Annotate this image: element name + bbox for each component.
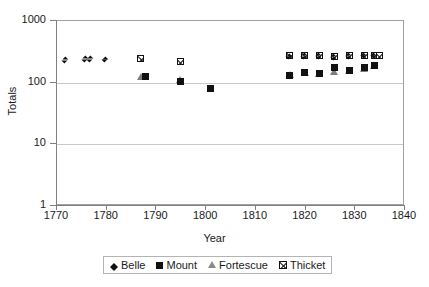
data-point-mount — [371, 62, 378, 69]
x-tick-label: 1810 — [235, 209, 275, 221]
legend-item-fortescue[interactable]: Fortescue — [208, 259, 268, 271]
data-point-thicket — [177, 58, 184, 65]
data-point-belle — [301, 50, 307, 56]
y-tick-label: 1000 — [0, 14, 46, 25]
data-point-belle — [102, 53, 108, 59]
data-point-belle — [331, 50, 337, 56]
legend-label: Fortescue — [219, 259, 268, 271]
x-tick-label: 1770 — [36, 209, 76, 221]
gridline — [57, 144, 403, 145]
crossed-square-marker-icon — [279, 261, 287, 269]
legend-label: Thicket — [290, 259, 325, 271]
data-point-mount — [177, 78, 184, 85]
scatter-chart: 1000100101 17701780179018001810182018301… — [0, 0, 429, 287]
triangle-marker-icon — [208, 261, 216, 268]
data-point-belle — [87, 53, 93, 59]
data-point-mount — [361, 64, 368, 71]
diamond-marker-icon — [110, 259, 118, 267]
x-tick-label: 1840 — [384, 209, 424, 221]
chart-legend: Belle Mount Fortescue Thicket — [103, 256, 332, 274]
data-point-belle — [361, 49, 367, 55]
data-point-belle — [316, 50, 322, 56]
data-point-belle — [286, 50, 292, 56]
gridline — [57, 83, 403, 84]
x-axis-title: Year — [0, 232, 429, 244]
legend-item-belle[interactable]: Belle — [110, 259, 145, 271]
y-tick — [50, 20, 56, 21]
plot-area — [56, 20, 404, 205]
data-point-mount — [316, 70, 323, 77]
data-point-mount — [301, 69, 308, 76]
x-axis-line — [56, 205, 405, 206]
data-point-belle — [62, 53, 68, 59]
legend-item-thicket[interactable]: Thicket — [279, 259, 325, 271]
legend-label: Mount — [166, 259, 197, 271]
x-tick-label: 1820 — [285, 209, 325, 221]
y-axis-line — [56, 20, 57, 206]
data-point-mount — [142, 73, 149, 80]
y-axis-title: Totals — [6, 71, 18, 131]
data-point-thicket — [137, 55, 144, 62]
y-tick — [50, 82, 56, 83]
x-tick-label: 1780 — [86, 209, 126, 221]
data-point-belle — [346, 50, 352, 56]
legend-item-mount[interactable]: Mount — [156, 259, 197, 271]
y-tick-label: 10 — [0, 137, 46, 148]
x-tick-label: 1790 — [135, 209, 175, 221]
data-point-thicket — [376, 52, 383, 59]
data-point-mount — [207, 85, 214, 92]
x-tick-label: 1830 — [334, 209, 374, 221]
x-tick-label: 1800 — [185, 209, 225, 221]
y-tick — [50, 143, 56, 144]
data-point-mount — [286, 72, 293, 79]
data-point-mount — [331, 64, 338, 71]
data-point-mount — [346, 67, 353, 74]
square-marker-icon — [156, 262, 163, 269]
legend-label: Belle — [121, 259, 145, 271]
data-point-belle — [371, 49, 377, 55]
